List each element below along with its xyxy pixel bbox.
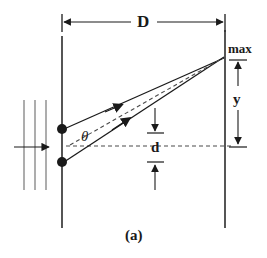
label-distance-D: D bbox=[137, 13, 149, 30]
ray-bisector-dashed bbox=[70, 58, 223, 145]
label-max: max bbox=[228, 42, 252, 55]
diagram-canvas bbox=[0, 0, 267, 258]
figure-caption: (a) bbox=[125, 228, 143, 243]
label-d: d bbox=[151, 140, 159, 155]
slit-source-upper-dot bbox=[57, 124, 67, 134]
ray-lower-direction-arrow bbox=[112, 120, 127, 130]
ray-upper-direction-arrow bbox=[105, 106, 119, 112]
label-theta: θ bbox=[81, 129, 88, 144]
ray-from-upper-slit bbox=[64, 58, 224, 129]
slit-source-lower-dot bbox=[57, 157, 67, 167]
figure-double-slit-diagram: D max y θ d (a) bbox=[0, 0, 267, 258]
label-y: y bbox=[233, 92, 241, 107]
incident-wavefronts bbox=[24, 100, 46, 190]
